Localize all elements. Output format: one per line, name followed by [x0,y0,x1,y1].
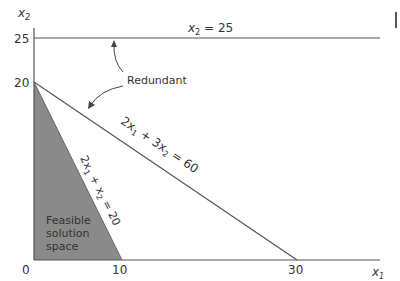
tick-x10: 10 [112,263,127,277]
redundant-label: Redundant [127,74,188,87]
lp-graph: x2 x1 25 20 0 10 30 x2 = 25 2x1 + 3x2 = … [0,0,400,281]
y-axis-label: x2 [17,6,30,22]
page-edge-mark [395,12,397,28]
tick-y20: 20 [14,76,29,90]
redundant-arrow-bottom [90,86,123,106]
arrowhead-top-icon [111,40,117,47]
label-2x1-3x2-60: 2x1 + 3x2 = 60 [117,114,201,178]
tick-y25: 25 [14,32,29,46]
label-x2-25: x2 = 25 [187,21,233,37]
tick-x30: 30 [288,263,303,277]
arrowhead-bottom-icon [88,101,95,109]
tick-origin: 0 [22,263,30,277]
x-axis-label: x1 [371,265,384,281]
